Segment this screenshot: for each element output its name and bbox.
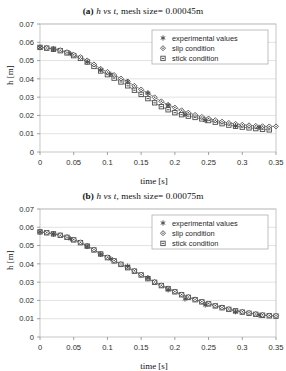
svg-text:0.06: 0.06 xyxy=(19,38,34,47)
plot-area-b: h [m] 00.010.020.030.040.050.060.0700.05… xyxy=(0,203,286,371)
svg-text:0.02: 0.02 xyxy=(19,111,34,120)
svg-text:0.03: 0.03 xyxy=(19,93,34,102)
figure-panel-a: (a) h vs t, mesh size= 0.00045m h [m] 00… xyxy=(0,0,286,185)
svg-text:0.1: 0.1 xyxy=(102,343,113,352)
svg-text:0.05: 0.05 xyxy=(19,56,34,65)
figure-b-title: (b) h vs t, mesh size= 0.00075m xyxy=(0,185,286,203)
svg-text:0: 0 xyxy=(38,158,42,167)
figure-a-title-math: h vs t, xyxy=(96,6,118,16)
svg-text:0.2: 0.2 xyxy=(170,343,181,352)
svg-text:slip condition: slip condition xyxy=(172,44,215,53)
svg-text:0.03: 0.03 xyxy=(19,278,34,287)
svg-text:0.05: 0.05 xyxy=(19,241,34,250)
figure-page: (a) h vs t, mesh size= 0.00045m h [m] 00… xyxy=(0,0,286,371)
figure-a-title-rest: mesh size= 0.00045m xyxy=(121,6,203,16)
figure-a-title: (a) h vs t, mesh size= 0.00045m xyxy=(0,0,286,18)
figure-b-title-math: h vs t, xyxy=(96,191,118,201)
svg-text:0.3: 0.3 xyxy=(237,343,248,352)
svg-text:0.02: 0.02 xyxy=(19,296,34,305)
figure-b-panel-label: (b) xyxy=(82,191,94,201)
figure-b-title-rest: mesh size= 0.00075m xyxy=(121,191,203,201)
svg-text:stick condition: stick condition xyxy=(172,54,218,63)
svg-text:0.04: 0.04 xyxy=(19,260,34,269)
svg-text:0.06: 0.06 xyxy=(19,223,34,232)
svg-text:0.25: 0.25 xyxy=(201,158,216,167)
svg-text:experimental values: experimental values xyxy=(172,34,238,43)
figure-panel-b: (b) h vs t, mesh size= 0.00075m h [m] 00… xyxy=(0,185,286,370)
svg-text:0.3: 0.3 xyxy=(237,158,248,167)
svg-text:experimental values: experimental values xyxy=(172,219,238,228)
chart-canvas-a: 00.010.020.030.040.050.060.0700.050.10.1… xyxy=(0,18,286,186)
svg-text:0.01: 0.01 xyxy=(19,314,34,323)
svg-text:0: 0 xyxy=(30,148,34,157)
svg-text:0: 0 xyxy=(38,343,42,352)
svg-text:slip condition: slip condition xyxy=(172,229,215,238)
svg-text:0.2: 0.2 xyxy=(170,158,181,167)
svg-text:0.01: 0.01 xyxy=(19,129,34,138)
svg-text:0.25: 0.25 xyxy=(201,343,216,352)
svg-text:0: 0 xyxy=(30,333,34,342)
svg-text:0.05: 0.05 xyxy=(66,158,81,167)
svg-text:0.15: 0.15 xyxy=(134,158,149,167)
chart-canvas-b: 00.010.020.030.040.050.060.0700.050.10.1… xyxy=(0,203,286,371)
svg-text:0.07: 0.07 xyxy=(19,205,34,214)
plot-area-a: h [m] 00.010.020.030.040.050.060.0700.05… xyxy=(0,18,286,186)
svg-text:0.04: 0.04 xyxy=(19,75,34,84)
svg-text:stick condition: stick condition xyxy=(172,239,218,248)
svg-text:0.05: 0.05 xyxy=(66,343,81,352)
svg-text:0.1: 0.1 xyxy=(102,158,113,167)
svg-text:0.15: 0.15 xyxy=(134,343,149,352)
figure-a-panel-label: (a) xyxy=(83,6,94,16)
svg-text:0.35: 0.35 xyxy=(269,158,284,167)
svg-text:0.07: 0.07 xyxy=(19,20,34,29)
svg-text:0.35: 0.35 xyxy=(269,343,284,352)
x-axis-label-b: time [s] xyxy=(0,361,286,371)
